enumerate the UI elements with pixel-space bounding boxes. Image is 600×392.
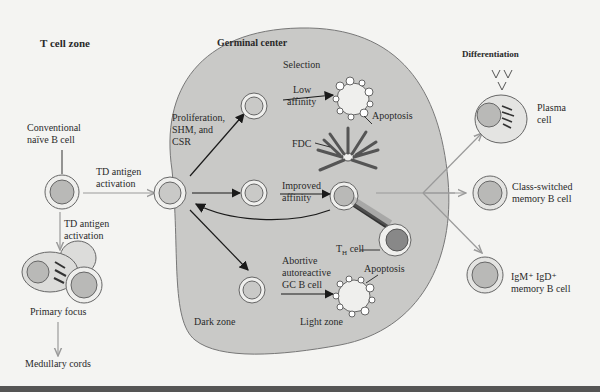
germinal-center-diagram: T cell zone Germinal center Differentiat… [0, 0, 600, 392]
improved-affinity-label-2: affinity [282, 192, 311, 204]
low-affinity-label-2: affinity [287, 96, 316, 108]
td-antigen-down-label-2: activation [64, 230, 103, 242]
naive-b-cell-label-1: Conventional [27, 122, 81, 134]
primary-focus-cells [22, 241, 102, 303]
th-cell [379, 224, 411, 256]
differentiation-label: Differentiation [462, 48, 519, 60]
plasma-cell-label-1: Plasma [537, 102, 566, 114]
t-cell-zone-label: T cell zone [40, 37, 90, 49]
improved-affinity-label-1: Improved [282, 180, 321, 192]
td-antigen-label-2: activation [96, 178, 135, 190]
dark-zone-label: Dark zone [194, 316, 235, 328]
fdc-label: FDC [292, 138, 311, 150]
naive-b-cell [45, 175, 79, 209]
abortive-label-1: Abortive [282, 255, 318, 267]
bottom-border [0, 386, 600, 392]
gc-b-cell-middle [241, 180, 267, 206]
medullary-cords-label: Medullary cords [25, 358, 91, 370]
igm-igd-label-1: IgM⁺ IgD⁺ [511, 271, 557, 283]
td-antigen-down-label-1: TD antigen [64, 218, 109, 230]
igm-igd-label-2: memory B cell [511, 283, 570, 295]
class-switched-label-1: Class-switched [512, 181, 573, 193]
td-antigen-label-1: TD antigen [96, 166, 141, 178]
gc-b-cell-center [154, 177, 186, 209]
apoptosis-top-label: Apoptosis [372, 110, 413, 122]
gc-b-cell-top [241, 93, 267, 119]
low-affinity-label-1: Low [293, 84, 311, 96]
plasma-cell-label-2: cell [537, 114, 551, 126]
light-zone-label: Light zone [300, 316, 343, 328]
abortive-label-2: autoreactive [282, 267, 331, 279]
proliferation-label-2: SHM, and [172, 124, 213, 136]
plasma-cell [475, 70, 527, 143]
proliferation-label-1: Proliferation, [172, 112, 225, 124]
apoptosis-bottom-label: Apoptosis [364, 263, 405, 275]
gc-b-cell-bottom [239, 277, 265, 303]
class-switched-label-2: memory B cell [512, 193, 571, 205]
abortive-label-3: GC B cell [282, 279, 322, 291]
germinal-center-label: Germinal center [217, 37, 287, 49]
naive-b-cell-label-2: naïve B cell [27, 134, 75, 146]
selection-label: Selection [283, 59, 320, 71]
th-cell-label: TH cell [336, 243, 364, 259]
proliferation-label-3: CSR [172, 136, 191, 148]
class-switched-memory-b-cell [473, 176, 507, 210]
igm-igd-memory-b-cell [467, 257, 503, 293]
primary-focus-label: Primary focus [30, 306, 86, 318]
